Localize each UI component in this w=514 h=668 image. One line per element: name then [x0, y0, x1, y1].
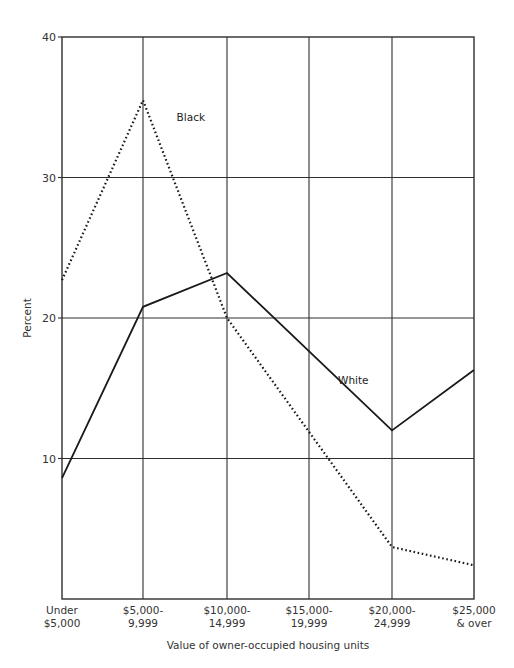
y-tick-label: 10 — [42, 453, 56, 466]
line-chart: 10203040 Under$5,000$5,000-9,999$10,000-… — [0, 0, 514, 668]
white-series-label: White — [338, 374, 369, 386]
x-tick-label: $15,000-19,999 — [285, 604, 332, 629]
y-axis-ticks: 10203040 — [42, 31, 62, 466]
x-tick-label: Under$5,000 — [44, 604, 81, 629]
black-series-label: Black — [177, 111, 206, 123]
series-labels: WhiteBlack — [177, 111, 369, 386]
x-tick-label: $5,000-9,999 — [123, 604, 164, 629]
black-series-line — [62, 100, 474, 565]
y-tick-label: 20 — [42, 312, 56, 325]
grid-lines — [62, 37, 474, 599]
x-axis-title: Value of owner-occupied housing units — [167, 639, 370, 651]
data-series — [62, 100, 474, 565]
y-tick-label: 30 — [42, 172, 56, 185]
y-tick-label: 40 — [42, 31, 56, 44]
x-tick-label: $10,000-14,999 — [203, 604, 250, 629]
x-tick-label: $20,000-24,999 — [368, 604, 415, 629]
white-series-line — [62, 273, 474, 478]
x-axis-ticks: Under$5,000$5,000-9,999$10,000-14,999$15… — [44, 604, 496, 629]
y-axis-title: Percent — [21, 298, 33, 338]
x-tick-label: $25,000& over — [452, 604, 495, 629]
